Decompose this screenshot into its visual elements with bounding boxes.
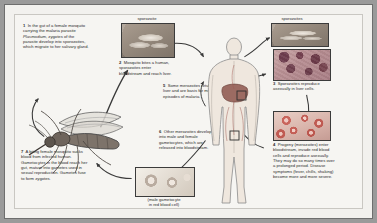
liver-organ <box>222 84 248 102</box>
sporozoite-micrograph <box>121 23 175 58</box>
figure-inner-panel: 1 In the gut of a female mosquito carryi… <box>14 14 363 209</box>
step-2-text: 2 Mosquito bites a human, sporozoites en… <box>119 60 175 76</box>
sporozoite-label: sporozoite <box>121 16 173 21</box>
mosquito-head <box>45 137 55 147</box>
sporozoites-micrograph <box>271 23 329 47</box>
step-3-text: 3 Sporozoites reproduce asexually in liv… <box>273 81 333 92</box>
gametocyte-micrograph <box>135 167 195 197</box>
step-4-text: 4 Progeny (merozoites) enter bloodstream… <box>273 142 335 179</box>
mosquito-abdomen <box>64 134 119 149</box>
mosquito-illustration <box>25 93 143 175</box>
figure-canvas: 1 In the gut of a female mosquito carryi… <box>0 0 377 223</box>
sporozoites-label: sporozoites <box>263 16 321 21</box>
figure-outer-frame: 1 In the gut of a female mosquito carryi… <box>4 4 373 219</box>
gametocyte-caption: (male gametocyte in red blood cell) <box>129 197 199 207</box>
red-blood-cells-micrograph <box>273 111 331 141</box>
step-1-text: 1 In the gut of a female mosquito carryi… <box>23 23 89 50</box>
gametocyte-caption-line-2: in red blood cell) <box>129 202 199 207</box>
mosquito-proboscis <box>29 144 46 155</box>
liver-cells-micrograph <box>273 49 331 81</box>
human-body-illustration <box>197 35 271 209</box>
